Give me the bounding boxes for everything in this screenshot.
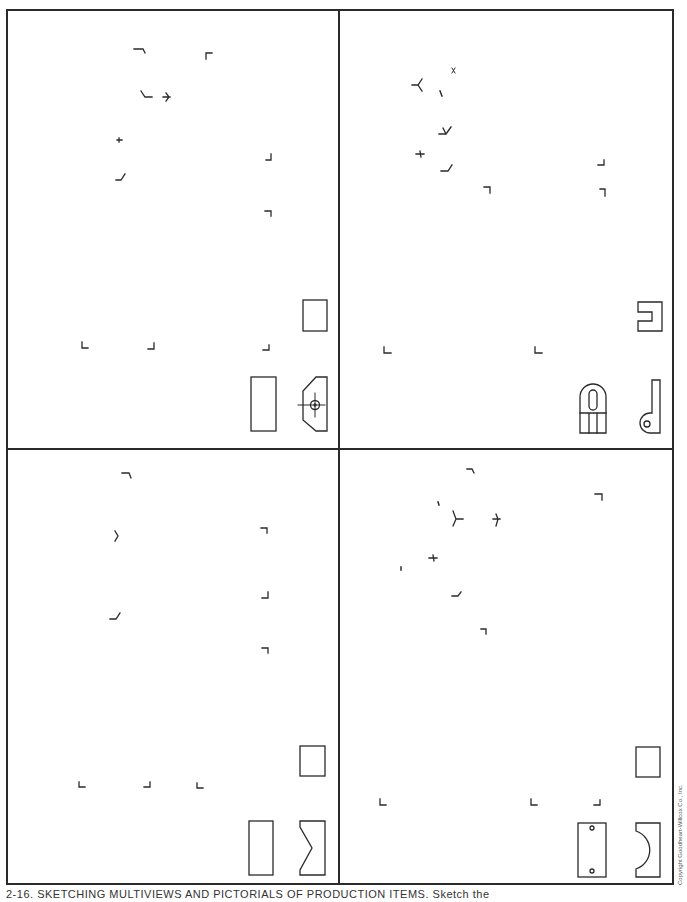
- top-view-rectangle: [303, 300, 327, 331]
- front-view-plate-with-holes: [578, 823, 606, 877]
- top-view-rectangle: [636, 747, 660, 777]
- front-view-rounded-slot-part: [580, 384, 606, 433]
- isometric-tick-marks: [384, 68, 605, 353]
- quadrant-top-right: [384, 68, 662, 433]
- worksheet-page: 2-16. SKETCHING MULTIVIEWS AND PICTORIAL…: [0, 0, 687, 902]
- figure-caption: 2-16. SKETCHING MULTIVIEWS AND PICTORIAL…: [6, 888, 490, 900]
- side-view-l-bracket: [640, 380, 660, 433]
- side-view-semicircle-cutout-block: [636, 823, 660, 877]
- quadrant-bottom-left: [79, 473, 325, 875]
- sketch-drawings: [0, 0, 687, 902]
- front-view-rectangle: [251, 377, 276, 431]
- quadrant-top-left: [82, 49, 327, 431]
- isometric-tick-marks: [380, 469, 602, 805]
- top-view-rectangle: [300, 746, 325, 776]
- isometric-tick-marks: [82, 49, 271, 350]
- side-view-chamfered-block: [298, 377, 327, 431]
- copyright-notice: Copyright Goodheart-Willcox Co., Inc.: [677, 784, 683, 885]
- top-view-slotted-outline: [638, 302, 662, 331]
- front-view-rectangle: [249, 821, 273, 875]
- quadrant-bottom-right: [380, 469, 660, 877]
- isometric-tick-marks: [79, 473, 268, 788]
- side-view-v-notch-block: [300, 821, 325, 875]
